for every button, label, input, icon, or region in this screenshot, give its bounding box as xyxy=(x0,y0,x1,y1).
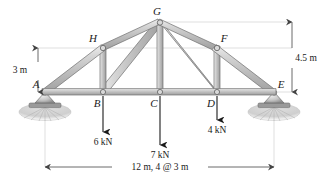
member-g-f xyxy=(157,19,216,50)
load-label-d: 4 kN xyxy=(208,125,227,135)
node-label-e: E xyxy=(277,78,285,90)
node-label-d: D xyxy=(206,97,215,109)
truss-diagram: A B C D E F G H 6 kN 7 kN 4 kN 3 m xyxy=(0,0,329,188)
node-label-b: B xyxy=(94,97,101,109)
dimension-span-bottom: 12 m, 4 @ 3 m xyxy=(45,162,274,172)
node-label-h: H xyxy=(88,32,98,44)
node-label-g: G xyxy=(153,5,161,17)
load-label-b: 6 kN xyxy=(94,137,113,147)
member-g-d xyxy=(157,19,219,94)
dimension-height-right: 4.5 m xyxy=(292,22,317,92)
node-label-c: C xyxy=(150,97,158,109)
dimension-label-height-left: 3 m xyxy=(13,65,28,75)
member-f-e xyxy=(212,45,274,95)
member-a-h xyxy=(43,45,105,95)
dimension-label-span-bottom: 12 m, 4 @ 3 m xyxy=(132,162,189,172)
truss-svg: A B C D E F G H 6 kN 7 kN 4 kN 3 m xyxy=(0,0,329,188)
truss-members xyxy=(42,19,276,95)
member-b-g xyxy=(100,19,162,94)
dimension-label-height-right: 4.5 m xyxy=(295,53,317,63)
load-label-c: 7 kN xyxy=(151,150,170,160)
member-c-g xyxy=(157,21,163,93)
load-arrows xyxy=(103,96,217,145)
node-label-a: A xyxy=(32,78,40,90)
node-label-f: F xyxy=(220,32,228,44)
